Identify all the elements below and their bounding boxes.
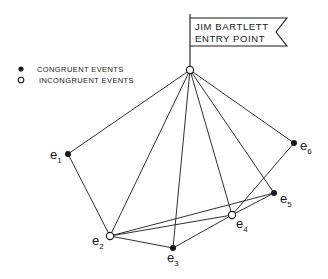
flag-line-1: JIM BARTLETT [195,21,269,32]
legend-congruent-label: CONGRUENT EVENTS [37,65,124,74]
edge-e1-e2 [68,154,110,236]
label-e5: e5 [280,191,292,209]
edge-entry-e5 [190,70,274,193]
event-graph-diagram: JIM BARTLETT ENTRY POINT CONGRUENT EVENT… [0,0,328,279]
edge-e2-e3 [110,236,173,248]
node-e5-filled-circle-icon [271,190,277,196]
diagram-canvas: JIM BARTLETT ENTRY POINT CONGRUENT EVENT… [0,0,328,279]
edge-entry-e2 [110,70,190,236]
edge-e2-e5 [110,193,274,236]
node-e4-open-circle-icon [228,211,235,218]
node-e1-filled-circle-icon [65,151,71,157]
label-e4: e4 [236,216,248,234]
edge-e4-e5 [232,193,274,215]
label-e6: e6 [300,138,312,156]
legend-incongruent-label: INCONGRUENT EVENTS [39,76,134,85]
flag-line-2: ENTRY POINT [195,33,265,44]
congruent-filled-circle-icon [18,66,23,71]
edge-entry-e6 [190,70,294,143]
label-e1: e1 [50,147,62,165]
node-e6-filled-circle-icon [291,140,297,146]
legend: CONGRUENT EVENTS INCONGRUENT EVENTS [18,65,134,85]
edges [68,70,294,248]
edge-entry-e3 [173,70,190,248]
incongruent-open-circle-icon [18,77,24,83]
label-e3: e3 [167,250,179,268]
edge-entry-e4 [190,70,232,215]
nodes [65,66,297,251]
label-e2: e2 [92,233,104,251]
node-labels: e1 e2 e3 e4 e5 e6 [50,138,312,268]
node-entry-open-circle-icon [186,66,193,73]
node-e2-open-circle-icon [106,232,113,239]
